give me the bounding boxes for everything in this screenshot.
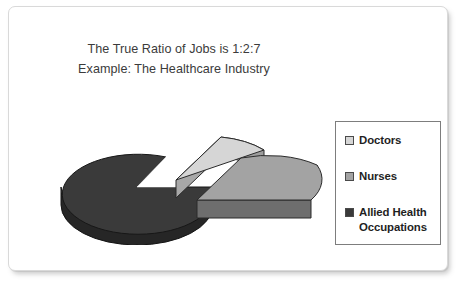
pie-chart bbox=[45, 125, 331, 245]
chart-title-line-2: Example: The Healthcare Industry bbox=[9, 59, 339, 79]
chart-legend: Doctors Nurses Allied Health Occupations bbox=[335, 121, 441, 245]
chart-title-line-1: The True Ratio of Jobs is 1:2:7 bbox=[9, 39, 339, 59]
legend-swatch-nurses bbox=[345, 172, 354, 181]
legend-label-doctors: Doctors bbox=[359, 133, 401, 148]
slide-card: The True Ratio of Jobs is 1:2:7 Example:… bbox=[8, 6, 448, 271]
legend-swatch-doctors bbox=[345, 136, 354, 145]
legend-label-nurses: Nurses bbox=[359, 169, 397, 184]
legend-item-doctors[interactable]: Doctors bbox=[345, 133, 401, 148]
chart-title: The True Ratio of Jobs is 1:2:7 Example:… bbox=[9, 39, 339, 79]
legend-swatch-allied-health bbox=[345, 208, 354, 217]
legend-item-allied-health[interactable]: Allied Health Occupations bbox=[345, 205, 427, 234]
legend-label-allied-health: Allied Health Occupations bbox=[359, 205, 427, 234]
legend-item-nurses[interactable]: Nurses bbox=[345, 169, 397, 184]
